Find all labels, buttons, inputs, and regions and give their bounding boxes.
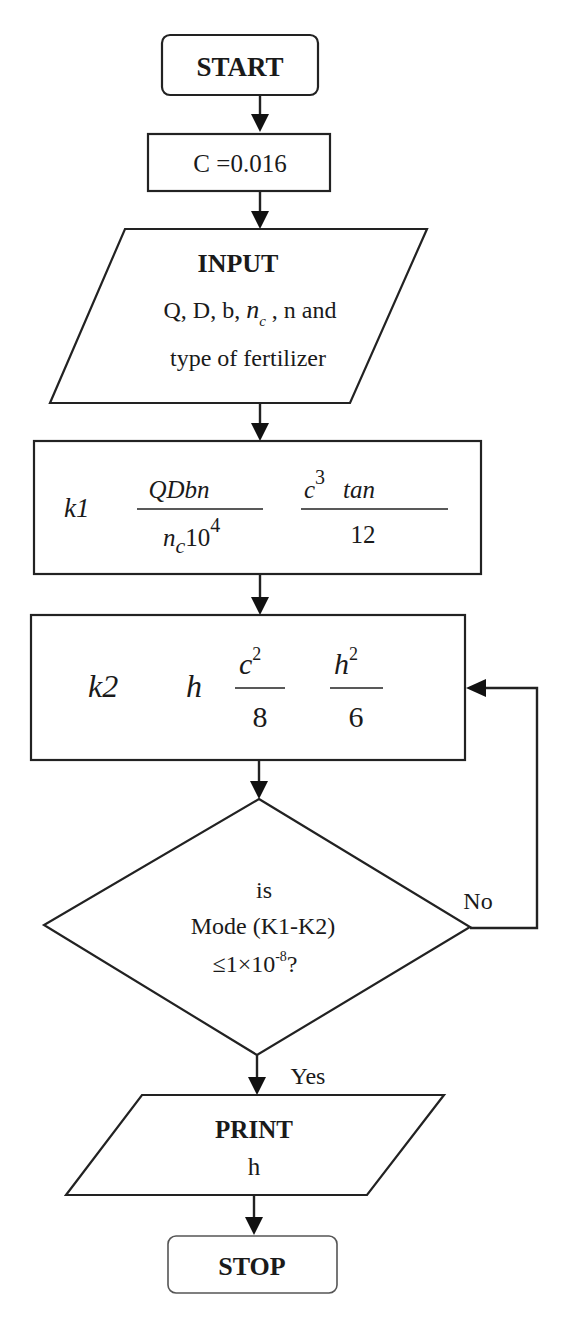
input-fertilizer: type of fertilizer xyxy=(170,345,326,371)
print-node: PRINT h xyxy=(66,1095,444,1195)
print-shape xyxy=(66,1095,444,1195)
arrowhead-icon xyxy=(466,679,486,697)
decision-node: is Mode (K1-K2) ≤1×10-8? xyxy=(44,799,470,1055)
k1-shape xyxy=(34,441,481,574)
k1-frac1-numerator: QDbn xyxy=(148,476,209,503)
arrowhead-icon xyxy=(251,597,269,615)
k1-node: k1 QDbn nc104 c3tan 12 xyxy=(34,441,481,574)
set-c-label: C =0.016 xyxy=(193,150,286,177)
arrow-no-loop: No xyxy=(463,679,537,928)
arrowhead-icon xyxy=(251,423,269,441)
decision-condition: Mode (K1-K2) xyxy=(191,913,336,939)
arrow-start-to-c xyxy=(251,95,269,132)
edge-label-yes: Yes xyxy=(291,1063,326,1089)
set-c-node: C =0.016 xyxy=(148,134,330,191)
print-title: PRINT xyxy=(215,1116,293,1143)
arrow-c-to-input xyxy=(251,191,269,229)
edge-label-no: No xyxy=(463,888,492,914)
k2-node: k2 h c2 8 h2 6 xyxy=(31,615,465,760)
input-node: INPUT Q, D, b, nc , n and type of fertil… xyxy=(50,229,427,403)
arrow-input-to-k1 xyxy=(251,403,269,441)
flowchart-canvas: START C =0.016 INPUT Q, D, b, nc , n and… xyxy=(0,0,567,1319)
k2-lhs: k2 xyxy=(88,668,118,704)
arrowhead-icon xyxy=(250,781,268,799)
input-title: INPUT xyxy=(198,249,279,278)
decision-line-is: is xyxy=(256,877,272,903)
arrow-k2-to-decision xyxy=(250,760,268,799)
arrow-yes: Yes xyxy=(248,1055,325,1095)
k1-frac2-denominator: 12 xyxy=(351,521,376,548)
stop-label: STOP xyxy=(218,1252,286,1281)
arrowhead-icon xyxy=(248,1077,266,1095)
k2-frac2-denominator: 6 xyxy=(349,700,364,733)
start-label: START xyxy=(196,52,283,82)
k2-var-h: h xyxy=(186,668,202,704)
k1-lhs: k1 xyxy=(64,493,89,523)
print-value: h xyxy=(248,1153,261,1180)
arrowhead-icon xyxy=(251,114,269,132)
k2-frac1-denominator: 8 xyxy=(253,700,268,733)
arrowhead-icon xyxy=(245,1217,263,1235)
stop-node: STOP xyxy=(168,1236,337,1293)
arrow-print-to-stop xyxy=(245,1195,263,1235)
start-node: START xyxy=(162,35,318,95)
arrow-k1-to-k2 xyxy=(251,574,269,615)
arrowhead-icon xyxy=(251,211,269,229)
